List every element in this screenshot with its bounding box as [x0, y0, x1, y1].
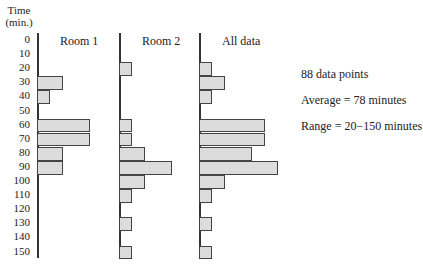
- y-tick: 70: [0, 132, 30, 144]
- histogram-bar: [119, 133, 132, 147]
- histogram-bar: [119, 161, 172, 175]
- y-tick: 40: [0, 89, 30, 101]
- y-tick: 50: [0, 104, 30, 116]
- histogram-bar: [37, 161, 63, 175]
- histogram-bar: [199, 90, 212, 104]
- y-title-line1: Time: [2, 4, 36, 16]
- room1-title: Room 1: [60, 34, 98, 49]
- histogram-bar: [199, 62, 212, 76]
- histogram-bar: [119, 189, 132, 203]
- y-tick: 0: [0, 33, 30, 45]
- stat-average: Average = 78 minutes: [301, 93, 407, 108]
- histogram-bar: [199, 161, 278, 175]
- histogram-bar: [119, 62, 132, 76]
- histogram-bar: [199, 133, 265, 147]
- y-tick: 90: [0, 160, 30, 172]
- histogram-bar: [199, 217, 212, 231]
- histogram-bar: [119, 175, 145, 189]
- y-axis-title: Time (min.): [2, 4, 36, 28]
- y-tick: 130: [0, 216, 30, 228]
- all-data-title: All data: [222, 34, 260, 49]
- histogram-bar: [37, 119, 90, 133]
- histogram-bar: [37, 147, 63, 161]
- y-tick: 10: [0, 47, 30, 59]
- histogram-bar: [119, 246, 132, 260]
- histogram-bar: [199, 189, 212, 203]
- histogram-bar: [37, 90, 50, 104]
- y-tick: 110: [0, 188, 30, 200]
- y-tick: 30: [0, 75, 30, 87]
- y-tick: 20: [0, 61, 30, 73]
- y-tick: 60: [0, 118, 30, 130]
- histogram-bar: [119, 217, 132, 231]
- y-tick: 100: [0, 174, 30, 186]
- histogram-bar: [37, 133, 90, 147]
- histogram-bar: [199, 147, 252, 161]
- stat-count: 88 data points: [301, 67, 368, 82]
- y-tick: 140: [0, 230, 30, 242]
- histogram-bar: [199, 246, 212, 260]
- histogram-bar: [119, 147, 145, 161]
- histogram-bar: [119, 119, 132, 133]
- y-tick: 120: [0, 202, 30, 214]
- stat-range: Range = 20−150 minutes: [301, 119, 422, 134]
- y-tick: 80: [0, 146, 30, 158]
- histogram-bar: [199, 119, 265, 133]
- histogram-bar: [199, 175, 225, 189]
- room2-title: Room 2: [142, 34, 180, 49]
- histogram-bar: [37, 76, 63, 90]
- y-tick: 150: [0, 245, 30, 257]
- y-title-line2: (min.): [2, 16, 36, 28]
- histogram-bar: [199, 76, 225, 90]
